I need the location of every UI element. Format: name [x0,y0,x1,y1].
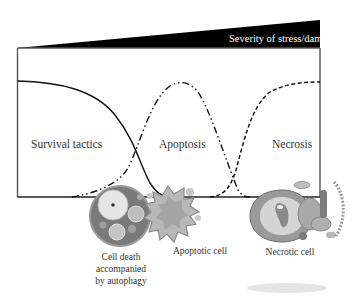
autophagy-cell-illustration [90,186,150,246]
cell-fate-diagram: Severity of stress/damage Survival tacti… [0,0,361,297]
region-label-necrosis: Necrosis [272,138,312,150]
caption-line: Cell death [90,251,152,263]
caption-line: Necrotic cell [255,246,325,258]
caption-line: by autophagy [90,275,152,287]
caption-line: Apoptotic cell [160,245,240,257]
necrotic-cell-illustration [247,182,343,294]
severity-label: Severity of stress/damage [229,33,337,44]
caption-line: accompanied [90,263,152,275]
plot-frame [18,48,321,197]
caption-autophagy: Cell death accompanied by autophagy [90,251,152,287]
apoptotic-cell-illustration [144,186,201,242]
region-label-apoptosis: Apoptosis [159,138,206,150]
caption-apoptotic: Apoptotic cell [160,245,240,257]
region-label-survival: Survival tactics [31,138,102,150]
caption-necrotic: Necrotic cell [255,246,325,258]
